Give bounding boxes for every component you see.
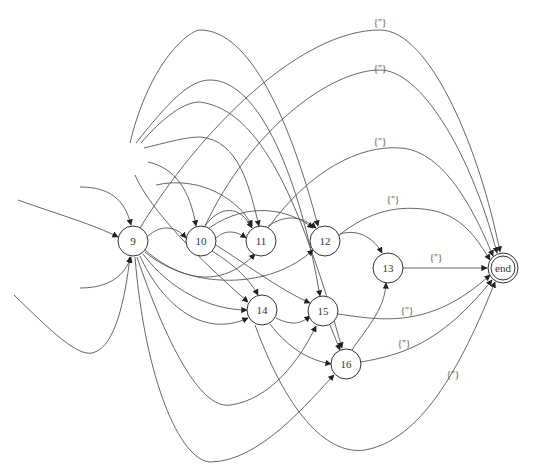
node-14-label: 14 <box>257 304 269 316</box>
edge-labels: {''} {''} {''} {''} {''} {''} {''} {''} <box>373 17 459 380</box>
node-end[interactable]: end <box>488 253 518 283</box>
node-13[interactable]: 13 <box>373 253 403 283</box>
node-10[interactable]: 10 <box>186 226 216 256</box>
edge-label: {''} <box>373 63 386 74</box>
node-9[interactable]: 9 <box>118 226 148 256</box>
node-9-label: 9 <box>130 235 136 247</box>
edge-label: {''} <box>446 369 459 380</box>
node-15-label: 15 <box>318 305 330 317</box>
node-14[interactable]: 14 <box>247 295 277 325</box>
edge-label: {''} <box>373 136 386 147</box>
node-11[interactable]: 11 <box>246 226 276 256</box>
edge-label: {''} <box>373 17 386 28</box>
node-16-label: 16 <box>341 358 353 370</box>
state-diagram: 9 10 11 12 13 14 15 16 end {''} {''} {''… <box>0 0 537 471</box>
edges-from-9 <box>135 250 334 462</box>
edge-label: {''} <box>386 194 399 205</box>
edge-label: {''} <box>400 305 413 316</box>
node-12[interactable]: 12 <box>310 226 340 256</box>
edge-label: {''} <box>429 252 442 263</box>
node-11-label: 11 <box>256 235 267 247</box>
node-10-label: 10 <box>196 235 208 247</box>
node-end-label: end <box>495 262 511 274</box>
incoming-edges-to-9 <box>14 187 131 353</box>
node-12-label: 12 <box>320 235 331 247</box>
fan-arcs <box>130 30 342 348</box>
node-13-label: 13 <box>383 262 395 274</box>
edge-label: {''} <box>397 338 410 349</box>
node-15[interactable]: 15 <box>308 296 338 326</box>
node-16[interactable]: 16 <box>331 349 361 379</box>
